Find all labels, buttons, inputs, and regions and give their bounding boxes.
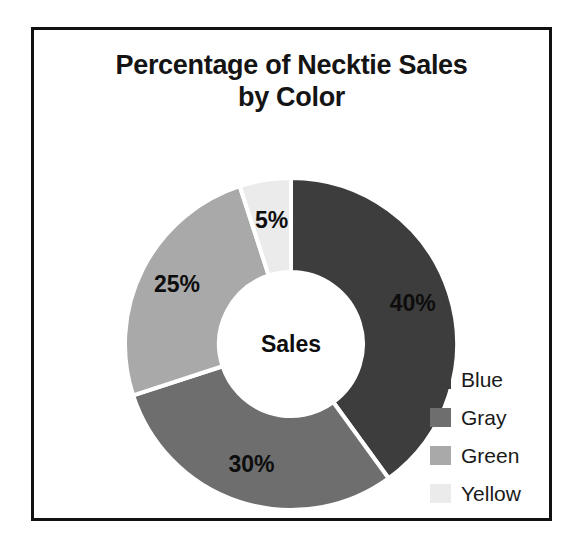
legend-label-blue: Blue [461,369,503,390]
legend-swatch-blue [430,370,451,389]
slice-value-label-green: 25% [154,271,200,297]
chart-frame: Percentage of Necktie Sales by Color 40%… [31,27,552,521]
legend-swatch-yellow [430,484,451,503]
slice-value-label-blue: 40% [390,290,436,316]
legend-item-green[interactable]: Green [430,436,550,474]
slice-value-label-yellow: 5% [255,207,288,233]
legend-swatch-green [430,446,451,465]
legend-label-yellow: Yellow [461,483,521,504]
donut-center-label: Sales [261,331,321,357]
legend-item-blue[interactable]: Blue [430,360,550,398]
chart-legend: BlueGrayGreenYellow [430,360,550,512]
legend-label-gray: Gray [461,407,507,428]
legend-item-gray[interactable]: Gray [430,398,550,436]
legend-item-yellow[interactable]: Yellow [430,474,550,512]
legend-label-green: Green [461,445,519,466]
slice-value-label-gray: 30% [228,451,274,477]
legend-swatch-gray [430,408,451,427]
